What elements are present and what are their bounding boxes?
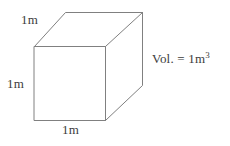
cube-front-face-edge <box>35 47 106 121</box>
volume-label: Vol. = 1m3 <box>152 52 210 65</box>
width-edge-label: 1m <box>62 123 79 136</box>
cube-volume-figure: 1m 1m 1m Vol. = 1m3 <box>0 0 230 146</box>
volume-label-word: Vol. <box>152 51 174 66</box>
volume-label-value: 1m <box>188 51 205 66</box>
volume-label-exponent: 3 <box>205 50 210 60</box>
depth-edge-label: 1m <box>21 13 38 26</box>
height-edge-label: 1m <box>7 77 24 90</box>
cube-top-face-edge <box>35 13 143 47</box>
cube-right-face-edge <box>106 13 143 121</box>
volume-label-equals: = <box>177 51 185 66</box>
